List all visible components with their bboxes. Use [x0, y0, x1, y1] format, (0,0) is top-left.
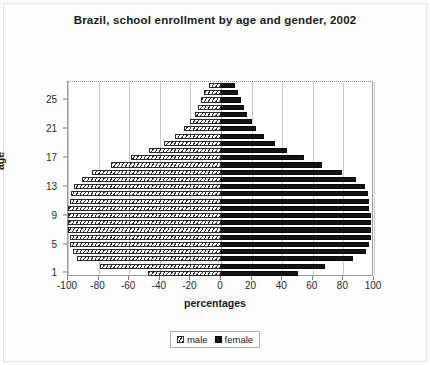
- x-tick-mark--100: [67, 276, 68, 280]
- bar-row: [68, 126, 372, 131]
- bar-male-age-7: [68, 227, 221, 232]
- bar-female-age-24: [221, 105, 244, 110]
- gridline-100: [374, 82, 375, 275]
- bar-male-age-25: [201, 97, 221, 102]
- bar-row: [68, 242, 372, 247]
- bar-male-age-10: [68, 206, 221, 211]
- bar-female-age-20: [221, 134, 264, 139]
- x-axis-title: percentages: [0, 297, 430, 309]
- bar-row: [68, 264, 372, 269]
- bar-male-age-18: [149, 148, 221, 153]
- legend-swatch-female-icon: [215, 336, 222, 343]
- bar-male-age-21: [184, 126, 221, 131]
- x-tick-mark-80: [342, 276, 343, 280]
- legend: male female: [170, 331, 260, 348]
- bar-female-age-12: [221, 191, 368, 196]
- legend-label-female: female: [225, 334, 254, 345]
- bar-row: [68, 170, 372, 175]
- y-tick-label-9: 9: [27, 209, 57, 220]
- bar-row: [68, 206, 372, 211]
- bar-female-age-23: [221, 112, 247, 117]
- bar-male-age-5: [70, 242, 221, 247]
- bar-male-age-6: [70, 235, 221, 240]
- bar-row: [68, 134, 372, 139]
- bar-male-age-22: [190, 119, 221, 124]
- bar-female-age-1: [221, 271, 298, 276]
- bar-row: [68, 148, 372, 153]
- x-tick-mark--60: [128, 276, 129, 280]
- y-tick-label-5: 5: [27, 238, 57, 249]
- bar-female-age-11: [221, 199, 369, 204]
- bar-female-age-2: [221, 264, 325, 269]
- y-axis-title: age: [0, 152, 6, 170]
- y-tick-label-13: 13: [27, 180, 57, 191]
- figure-container: Brazil, school enrollment by age and gen…: [0, 0, 430, 365]
- x-tick-mark-0: [220, 276, 221, 280]
- bar-row: [68, 97, 372, 102]
- bar-male-age-11: [70, 199, 221, 204]
- bar-female-age-13: [221, 184, 365, 189]
- x-tick-mark--20: [189, 276, 190, 280]
- bar-row: [68, 249, 372, 254]
- x-tick-mark-40: [281, 276, 282, 280]
- bar-row: [68, 256, 372, 261]
- bar-row: [68, 141, 372, 146]
- bar-female-age-25: [221, 97, 241, 102]
- bar-male-age-3: [77, 256, 221, 261]
- y-tick-label-1: 1: [27, 267, 57, 278]
- bar-male-age-1: [148, 271, 221, 276]
- bar-female-age-16: [221, 162, 322, 167]
- bar-female-age-15: [221, 170, 342, 175]
- bar-row: [68, 199, 372, 204]
- bar-female-age-17: [221, 155, 304, 160]
- bar-male-age-14: [82, 177, 221, 182]
- bar-row: [68, 119, 372, 124]
- bar-female-age-3: [221, 256, 353, 261]
- bar-row: [68, 177, 372, 182]
- bar-female-age-18: [221, 148, 287, 153]
- bar-male-age-4: [73, 249, 221, 254]
- x-tick-mark--80: [98, 276, 99, 280]
- bar-row: [68, 184, 372, 189]
- bar-female-age-4: [221, 249, 366, 254]
- y-tick-label-25: 25: [27, 94, 57, 105]
- legend-item-male: male: [177, 334, 208, 345]
- bar-row: [68, 162, 372, 167]
- bar-row: [68, 220, 372, 225]
- bar-male-age-16: [111, 162, 221, 167]
- bar-female-age-7: [221, 227, 371, 232]
- x-tick-mark-100: [373, 276, 374, 280]
- bar-row: [68, 105, 372, 110]
- bar-female-age-6: [221, 235, 371, 240]
- legend-item-female: female: [215, 334, 254, 345]
- bar-row: [68, 271, 372, 276]
- bar-male-age-17: [131, 155, 221, 160]
- bar-row: [68, 213, 372, 218]
- bar-female-age-26: [221, 90, 238, 95]
- legend-swatch-male-icon: [177, 336, 184, 343]
- bar-female-age-27: [221, 83, 235, 88]
- bar-female-age-21: [221, 126, 256, 131]
- bar-male-age-2: [100, 264, 221, 269]
- bar-male-age-23: [195, 112, 221, 117]
- x-tick-mark--40: [159, 276, 160, 280]
- bar-male-age-20: [175, 134, 221, 139]
- plot-area: [67, 81, 373, 276]
- bar-female-age-19: [221, 141, 275, 146]
- bar-female-age-14: [221, 177, 356, 182]
- bar-male-age-8: [68, 220, 221, 225]
- x-tick-label-100: 100: [353, 280, 393, 291]
- legend-label-male: male: [187, 334, 208, 345]
- bar-row: [68, 112, 372, 117]
- bar-male-age-27: [209, 83, 221, 88]
- bar-female-age-9: [221, 213, 371, 218]
- bar-male-age-12: [71, 191, 221, 196]
- y-tick-label-17: 17: [27, 151, 57, 162]
- bar-male-age-13: [74, 184, 221, 189]
- bar-male-age-15: [92, 170, 221, 175]
- bar-male-age-26: [204, 90, 221, 95]
- bar-row: [68, 227, 372, 232]
- bar-row: [68, 83, 372, 88]
- bar-row: [68, 191, 372, 196]
- bar-male-age-24: [198, 105, 221, 110]
